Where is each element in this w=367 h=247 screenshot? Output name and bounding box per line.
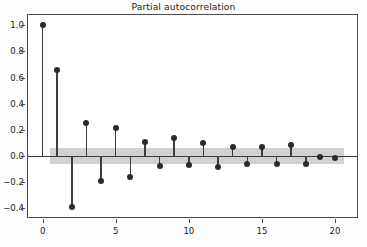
data-point-marker [113,125,119,131]
plot-area [27,14,358,218]
plot-surface [28,15,357,217]
x-tick-label: 15 [256,226,267,236]
data-point-marker [40,22,46,28]
x-tick-label: 0 [40,226,45,236]
data-point-marker [274,161,280,167]
x-tick-label: 10 [183,226,194,236]
y-tick-mark [21,182,25,183]
stem-line [71,156,73,207]
stem-line [115,128,117,155]
stem-line [56,70,58,156]
x-tick-mark [262,219,263,223]
data-point-marker [215,164,221,170]
x-axis-labels: 05101520 [27,219,358,239]
data-point-marker [244,161,250,167]
zero-reference-line [28,156,357,157]
x-tick-label: 5 [113,226,118,236]
y-axis-labels: −0.4−0.20.00.20.40.60.81.0 [0,14,24,218]
data-point-marker [142,139,148,145]
data-point-marker [98,178,104,184]
x-tick-mark [116,219,117,223]
y-tick-mark [21,130,25,131]
data-point-marker [259,144,265,150]
data-point-marker [83,120,89,126]
data-point-marker [157,163,163,169]
data-point-marker [69,204,75,210]
data-point-marker [127,174,133,180]
chart-title: Partial autocorrelation [0,1,367,12]
stem-line [86,123,88,156]
data-point-marker [171,135,177,141]
data-point-marker [200,140,206,146]
data-point-marker [230,144,236,150]
data-point-marker [54,67,60,73]
x-tick-mark [335,219,336,223]
y-tick-mark [21,156,25,157]
y-tick-mark [21,78,25,79]
y-tick-mark [21,104,25,105]
y-tick-mark [21,208,25,209]
stem-line [42,25,44,155]
x-tick-mark [43,219,44,223]
x-tick-label: 20 [330,226,341,236]
y-tick-mark [21,51,25,52]
x-tick-mark [189,219,190,223]
data-point-marker [303,161,309,167]
data-point-marker [186,162,192,168]
partial-autocorrelation-figure: Partial autocorrelation −0.4−0.20.00.20.… [0,0,367,247]
data-point-marker [288,142,294,148]
y-tick-mark [21,25,25,26]
